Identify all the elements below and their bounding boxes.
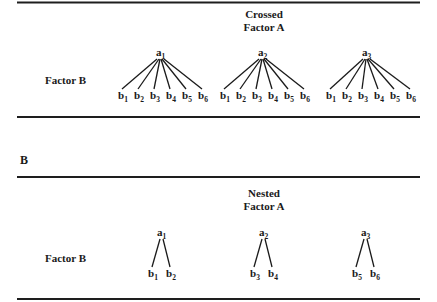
nested-factor-a-label: Factor A: [243, 200, 284, 212]
branch-line: [163, 239, 170, 267]
crossed-factor-b-label: Factor B: [45, 74, 87, 86]
b-node-label: b2: [166, 267, 176, 282]
b-node-label: b5: [182, 89, 192, 104]
b-node-label: b3: [150, 89, 160, 104]
branch-line: [265, 239, 272, 267]
branch-line: [240, 59, 261, 89]
b-node-label: b3: [358, 89, 368, 104]
branch-line: [122, 59, 157, 89]
branch-line: [367, 239, 374, 267]
branch-line: [138, 59, 159, 89]
b-node-label: b4: [268, 89, 278, 104]
b-node-label: b1: [326, 89, 336, 104]
a-node-label: a2: [258, 46, 268, 61]
b-node-label: b1: [220, 89, 230, 104]
crossed-factor-a-label: Factor A: [243, 21, 284, 33]
b-node-label: b2: [342, 89, 352, 104]
b-node-label: b5: [390, 89, 400, 104]
factor-a-level-3: a3b1b2b3b4b5b6: [326, 46, 416, 104]
factor-a-level-1: a1b1b2: [148, 226, 176, 282]
nested-factor-b-label: Factor B: [45, 252, 87, 264]
b-node-label: b6: [198, 89, 208, 104]
b-node-label: b2: [236, 89, 246, 104]
b-node-label: b4: [374, 89, 384, 104]
branch-line: [152, 239, 160, 267]
design-diagram: Crossed Factor A Factor B a1b1b2b3b4b5b6…: [0, 0, 437, 302]
b-node-label: b1: [118, 89, 128, 104]
factor-a-level-1: a1b1b2b3b4b5b6: [118, 46, 208, 104]
b-node-label: b4: [268, 267, 278, 282]
factor-a-level-2: a2b3b4: [250, 226, 278, 282]
factor-a-level-2: a2b1b2b3b4b5b6: [220, 46, 310, 104]
b-node-label: b2: [134, 89, 144, 104]
branch-line: [224, 59, 259, 89]
crossed-tree: a1b1b2b3b4b5b6a2b1b2b3b4b5b6a3b1b2b3b4b5…: [118, 46, 416, 104]
a-node-label: a3: [362, 46, 372, 61]
branch-line: [154, 59, 160, 89]
nested-title: Nested: [248, 187, 280, 199]
branch-line: [254, 239, 262, 267]
branch-line: [256, 59, 262, 89]
b-node-label: b3: [252, 89, 262, 104]
branch-line: [356, 239, 364, 267]
b-node-label: b5: [284, 89, 294, 104]
b-node-label: b1: [148, 267, 158, 282]
b-node-label: b6: [370, 267, 380, 282]
b-node-label: b4: [166, 89, 176, 104]
b-node-label: b6: [300, 89, 310, 104]
a-node-label: a1: [156, 46, 166, 61]
branch-line: [330, 59, 363, 89]
a-node-label: a1: [157, 226, 167, 241]
crossed-title: Crossed: [245, 8, 283, 20]
a-node-label: a2: [259, 226, 269, 241]
nested-tree: a1b1b2a2b3b4a3b5b6: [148, 226, 380, 282]
factor-a-level-3: a3b5b6: [352, 226, 380, 282]
a-node-label: a3: [361, 226, 371, 241]
b-node-label: b5: [352, 267, 362, 282]
b-node-label: b3: [250, 267, 260, 282]
panel-label-b: B: [20, 153, 28, 167]
b-node-label: b6: [406, 89, 416, 104]
